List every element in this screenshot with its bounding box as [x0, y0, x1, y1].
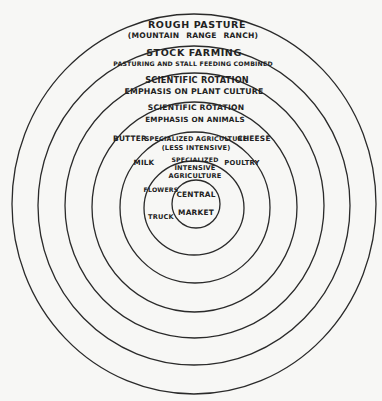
ring-central-market [172, 180, 220, 228]
zone-stock-farming-subtitle: PASTURING AND STALL FEEDING COMBINED [113, 61, 272, 67]
zone-specialized-intensive-line1: SPECIALIZED [171, 157, 218, 163]
zone-scientific-rotation-animals-title: SCIENTIFIC ROTATION [148, 104, 244, 112]
ring-scientific-rotation-plant [65, 73, 324, 338]
product-milk: MILK [134, 159, 155, 166]
zone-specialized-less-intensive-subtitle: (LESS INTENSIVE) [162, 145, 231, 152]
zone-scientific-rotation-plant-title: SCIENTIFIC ROTATION [145, 76, 249, 84]
central-market-line1: CENTRAL [176, 191, 215, 198]
zone-scientific-rotation-animals-subtitle: EMPHASIS ON ANIMALS [145, 116, 245, 123]
product-butter: BUTTER [113, 135, 147, 142]
product-poultry: POULTRY [224, 160, 259, 167]
zone-specialized-less-intensive-title: SPECIALIZED AGRICULTURE [145, 136, 247, 142]
zone-stock-farming-title: STOCK FARMING [146, 48, 242, 58]
zone-rough-pasture-title: ROUGH PASTURE [148, 20, 246, 30]
zone-scientific-rotation-plant-subtitle: EMPHASIS ON PLANT CULTURE [124, 88, 263, 96]
ring-rough-pasture [12, 14, 376, 394]
zone-specialized-intensive-line3: AGRICULTURE [169, 173, 222, 180]
central-market-line2: MARKET [178, 209, 214, 216]
zone-rough-pasture-subtitle: (MOUNTAIN RANGE RANCH) [128, 32, 258, 40]
zone-specialized-intensive-line2: INTENSIVE [174, 165, 215, 172]
product-truck: TRUCK [148, 214, 174, 221]
product-flowers: FLOWERS [144, 187, 179, 193]
